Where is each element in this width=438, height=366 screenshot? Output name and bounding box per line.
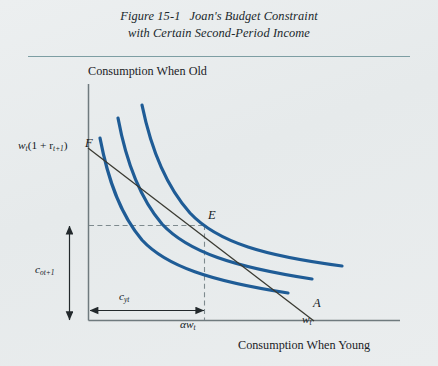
- figure-container: Figure 15-1Joan's Budget Constraint with…: [0, 0, 438, 366]
- figure-plot-area: [0, 0, 438, 366]
- y-axis-label: Consumption When Old: [88, 64, 207, 79]
- x-intercept-w: w: [302, 313, 310, 325]
- alpha-wt-tick-label: αwt: [180, 318, 196, 332]
- y-intercept-value-label: wt(1 + rt+1): [18, 139, 68, 153]
- f-intercept-rest: (1 + r: [28, 139, 53, 151]
- alpha-w-symbol: αw: [180, 318, 194, 330]
- f-intercept-w: w: [18, 139, 26, 151]
- c-young-sub: yt: [124, 295, 129, 304]
- consumption-old-bracket-label: cot+1: [35, 263, 55, 277]
- f-intercept-sub-t1: t+1: [53, 144, 64, 153]
- x-intercept-sub: t: [310, 318, 312, 327]
- indifference-curve-high: [142, 105, 342, 266]
- x-axis-label: Consumption When Young: [238, 338, 370, 353]
- point-f-label: F: [85, 136, 93, 151]
- f-intercept-close-paren: ): [64, 139, 68, 151]
- x-intercept-label: wt: [302, 313, 312, 327]
- point-a-label: A: [313, 296, 321, 311]
- alpha-w-sub: t: [194, 323, 196, 332]
- c-old-sub: ot+1: [40, 268, 54, 277]
- consumption-young-bracket-label: cyt: [119, 290, 129, 304]
- point-e-label: E: [208, 208, 216, 223]
